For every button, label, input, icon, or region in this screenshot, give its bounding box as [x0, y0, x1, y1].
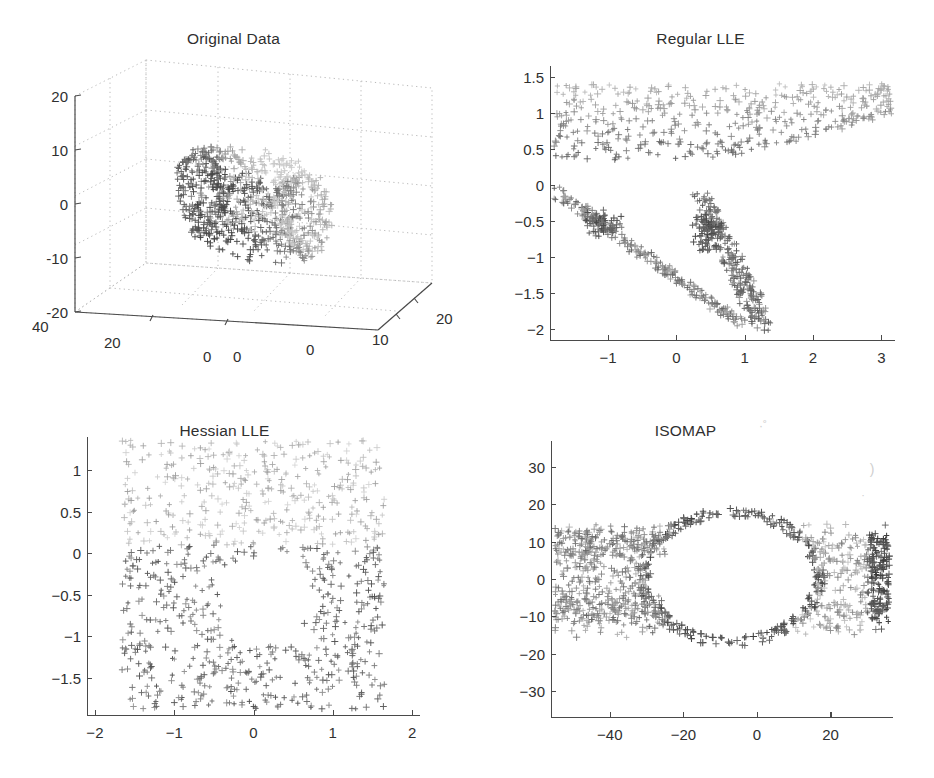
panel-original-data: Original Data .gl{stroke:#b9b9b9;stroke-…: [0, 0, 467, 389]
y-axis-hessian: [87, 437, 88, 715]
ytick-mark: [87, 470, 92, 471]
ytick-mark: [550, 113, 555, 114]
ytick-mark: [550, 149, 555, 150]
ytick-label: 0.5: [31, 504, 81, 519]
xtick-mark: [830, 712, 831, 717]
xtick-label: 1: [329, 725, 337, 740]
tick-y-0: 0: [203, 348, 211, 365]
x-axis-regular: [550, 340, 895, 341]
panel-isomap: ISOMAP ·˚ ) · −30−20−100102030−40−20020: [467, 389, 934, 778]
xtick-mark: [254, 710, 255, 715]
ytick-mark: [550, 221, 555, 222]
ytick-mark: [551, 654, 556, 655]
tick-x-10: 10: [372, 331, 389, 348]
ytick-mark: [87, 512, 92, 513]
tick-x-20: 20: [436, 310, 453, 327]
tick-z-0: 0: [20, 197, 68, 212]
xtick-mark: [333, 710, 334, 715]
ytick-mark: [550, 293, 555, 294]
ytick-label: −20: [495, 646, 545, 661]
xtick-mark: [757, 712, 758, 717]
xtick-mark: [745, 335, 746, 340]
xtick-label: −1: [166, 725, 183, 740]
xtick-label: 0: [753, 727, 761, 742]
xtick-label: −20: [671, 727, 696, 742]
ytick-label: −0.5: [494, 214, 544, 229]
tick-x-neg10: 0: [233, 348, 241, 365]
xtick-label: 2: [408, 725, 416, 740]
xtick-mark: [881, 335, 882, 340]
scatter-original-data: [0, 0, 467, 389]
panel-hessian-lle: Hessian LLE −1.5−1−0.500.51−2−1012: [0, 389, 467, 778]
xtick-mark: [95, 710, 96, 715]
ytick-mark: [550, 185, 555, 186]
ytick-label: 1: [494, 105, 544, 120]
figure-canvas: Original Data .gl{stroke:#b9b9b9;stroke-…: [0, 0, 934, 778]
ytick-mark: [551, 467, 556, 468]
y-axis-regular: [550, 66, 551, 340]
panel-regular-lle: Regular LLE −2−1.5−1−0.500.511.5−10123: [467, 0, 934, 389]
ytick-label: 0: [495, 572, 545, 587]
ytick-label: 20: [495, 497, 545, 512]
ytick-label: 1.5: [494, 69, 544, 84]
xtick-mark: [174, 710, 175, 715]
ytick-label: −1: [31, 629, 81, 644]
xtick-mark: [608, 335, 609, 340]
ytick-label: −0.5: [31, 587, 81, 602]
ytick-label: −1: [494, 250, 544, 265]
plot-axes-hessian-lle: −1.5−1−0.500.51−2−1012: [0, 389, 467, 778]
ytick-label: −1.5: [31, 670, 81, 685]
ytick-label: −2: [494, 322, 544, 337]
xtick-label: −2: [86, 725, 103, 740]
ytick-label: 1: [31, 463, 81, 478]
xtick-label: 0: [672, 350, 680, 365]
ytick-label: 0: [31, 546, 81, 561]
tick-x-0: 0: [306, 341, 314, 358]
ytick-mark: [551, 579, 556, 580]
xtick-mark: [412, 710, 413, 715]
xtick-mark: [683, 712, 684, 717]
ytick-mark: [551, 504, 556, 505]
plot-axes-regular-lle: −2−1.5−1−0.500.511.5−10123: [467, 0, 934, 389]
ytick-mark: [87, 553, 92, 554]
tick-y-40: 40: [32, 318, 49, 335]
ytick-label: 10: [495, 534, 545, 549]
ytick-label: −10: [495, 609, 545, 624]
tick-z-10: 10: [20, 143, 68, 158]
ytick-label: 0: [494, 177, 544, 192]
ytick-mark: [550, 329, 555, 330]
xtick-mark: [610, 712, 611, 717]
ytick-mark: [87, 595, 92, 596]
xtick-label: 0: [249, 725, 257, 740]
ytick-mark: [550, 257, 555, 258]
x-axis-hessian: [87, 715, 420, 716]
ytick-mark: [551, 542, 556, 543]
xtick-label: 2: [809, 350, 817, 365]
xtick-label: −1: [600, 350, 617, 365]
ytick-label: 0.5: [494, 141, 544, 156]
tick-z-neg10: -10: [20, 251, 68, 266]
plot-axes-isomap: −30−20−100102030−40−20020: [467, 389, 934, 778]
xtick-label: 20: [822, 727, 839, 742]
tick-y-20: 20: [104, 334, 121, 351]
x-axis-isomap: [551, 717, 893, 718]
ytick-mark: [551, 616, 556, 617]
xtick-label: 3: [877, 350, 885, 365]
ytick-mark: [87, 678, 92, 679]
xtick-label: 1: [741, 350, 749, 365]
ytick-label: 30: [495, 460, 545, 475]
ytick-label: −30: [495, 683, 545, 698]
ytick-label: −1.5: [494, 286, 544, 301]
ytick-mark: [87, 636, 92, 637]
tick-z-20: 20: [20, 89, 68, 104]
xtick-mark: [813, 335, 814, 340]
xtick-mark: [676, 335, 677, 340]
xtick-label: −40: [597, 727, 622, 742]
ytick-mark: [551, 691, 556, 692]
ytick-mark: [550, 77, 555, 78]
